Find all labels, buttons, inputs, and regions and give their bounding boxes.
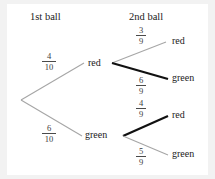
numerator: 6 <box>42 124 56 133</box>
node-second-green-red: red <box>172 110 185 120</box>
node-first-green: green <box>85 130 107 140</box>
node-second-green-green: green <box>172 149 194 159</box>
denominator: 9 <box>136 87 146 96</box>
denominator: 9 <box>136 37 146 46</box>
probability-root-red: 4 10 <box>42 52 56 71</box>
column-header-second-ball: 2nd ball <box>129 12 163 23</box>
column-header-first-ball: 1st ball <box>30 12 61 23</box>
node-second-red-green: green <box>172 73 194 83</box>
denominator: 9 <box>136 158 146 167</box>
denominator: 10 <box>42 63 56 72</box>
denominator: 10 <box>42 135 56 144</box>
probability-green-green: 5 9 <box>136 147 146 166</box>
denominator: 9 <box>136 110 146 119</box>
probability-green-red: 4 9 <box>136 99 146 118</box>
probability-root-green: 6 10 <box>42 124 56 143</box>
node-first-red: red <box>88 58 101 68</box>
diagram-page: 1st ball 2nd ball red green red green re… <box>0 0 215 179</box>
probability-red-red: 3 9 <box>136 26 146 45</box>
numerator: 4 <box>42 52 56 61</box>
probability-red-green: 6 9 <box>136 76 146 95</box>
branch-green-red <box>123 116 168 136</box>
numerator: 4 <box>136 99 146 108</box>
numerator: 3 <box>136 26 146 35</box>
node-second-red-red: red <box>172 36 185 46</box>
numerator: 6 <box>136 76 146 85</box>
numerator: 5 <box>136 147 146 156</box>
